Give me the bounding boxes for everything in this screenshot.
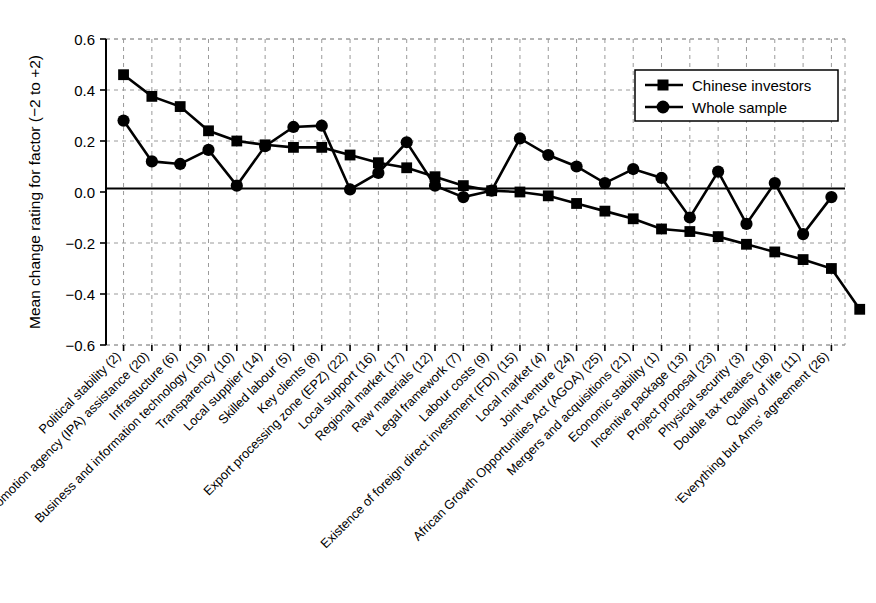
legend-label-chinese-investors: Chinese investors	[692, 77, 811, 94]
data-point-marker	[797, 228, 809, 240]
data-point-marker	[515, 187, 526, 198]
data-point-marker	[825, 191, 837, 203]
data-point-marker	[344, 183, 356, 195]
data-point-marker	[345, 150, 356, 161]
data-point-marker	[202, 144, 214, 156]
legend-label-whole-sample: Whole sample	[692, 99, 787, 116]
data-point-marker	[543, 190, 554, 201]
y-axis-ticks: 0.60.40.20.0−0.2−0.4−0.6	[65, 31, 106, 354]
data-point-marker	[713, 231, 724, 242]
y-tick-label: −0.6	[65, 337, 95, 354]
data-point-marker	[684, 226, 695, 237]
data-point-marker	[826, 263, 837, 274]
data-point-marker	[600, 206, 611, 217]
y-tick-label: 0.2	[74, 133, 95, 150]
data-point-marker	[571, 198, 582, 209]
x-axis-category-label: Investment promotion agency (IPA) assist…	[0, 349, 152, 565]
data-point-marker	[712, 166, 724, 178]
data-point-marker	[656, 224, 667, 235]
data-point-marker	[769, 177, 781, 189]
data-point-marker	[401, 162, 412, 173]
data-point-marker	[287, 121, 299, 133]
y-tick-label: −0.4	[65, 286, 95, 303]
data-point-marker	[231, 180, 243, 192]
y-axis-title: Mean change rating for factor (−2 to +2)	[26, 55, 43, 329]
data-point-marker	[599, 177, 611, 189]
data-point-marker	[854, 304, 865, 315]
data-point-marker	[231, 136, 242, 147]
data-point-marker	[175, 101, 186, 112]
data-point-marker	[655, 172, 667, 184]
data-point-marker	[401, 136, 413, 148]
data-point-marker	[458, 180, 469, 191]
data-point-marker	[457, 191, 469, 203]
data-point-marker	[798, 254, 809, 265]
y-tick-label: 0.4	[74, 82, 95, 99]
data-point-marker	[372, 167, 384, 179]
data-point-marker	[174, 158, 186, 170]
data-point-marker	[117, 115, 129, 127]
x-axis-ticks	[124, 345, 832, 351]
data-point-marker	[628, 213, 639, 224]
data-point-marker	[146, 91, 157, 102]
data-point-marker	[288, 142, 299, 153]
data-point-marker	[146, 155, 158, 167]
data-point-marker	[316, 120, 328, 132]
chart-figure: 0.60.40.20.0−0.2−0.4−0.6 Political stabi…	[0, 0, 876, 603]
data-point-marker	[769, 247, 780, 258]
x-axis-labels: Political stability (2)Investment promot…	[0, 349, 832, 565]
chart-legend: Chinese investors Whole sample	[635, 70, 838, 121]
y-tick-label: 0.0	[74, 184, 95, 201]
data-point-marker	[542, 149, 554, 161]
data-point-marker	[570, 160, 582, 172]
data-point-marker	[118, 69, 129, 80]
data-point-marker	[486, 185, 498, 197]
data-point-marker	[259, 140, 271, 152]
data-point-marker	[627, 163, 639, 175]
legend-square-marker	[658, 80, 669, 91]
line-chart: 0.60.40.20.0−0.2−0.4−0.6 Political stabi…	[0, 0, 876, 603]
data-point-marker	[741, 239, 752, 250]
y-tick-label: −0.2	[65, 235, 95, 252]
data-point-marker	[740, 218, 752, 230]
data-point-marker	[514, 132, 526, 144]
data-point-marker	[429, 180, 441, 192]
data-point-marker	[316, 142, 327, 153]
data-point-marker	[203, 125, 214, 136]
data-point-marker	[684, 211, 696, 223]
y-tick-label: 0.6	[74, 31, 95, 48]
data-point-marker	[373, 157, 384, 168]
legend-circle-marker	[657, 101, 670, 114]
